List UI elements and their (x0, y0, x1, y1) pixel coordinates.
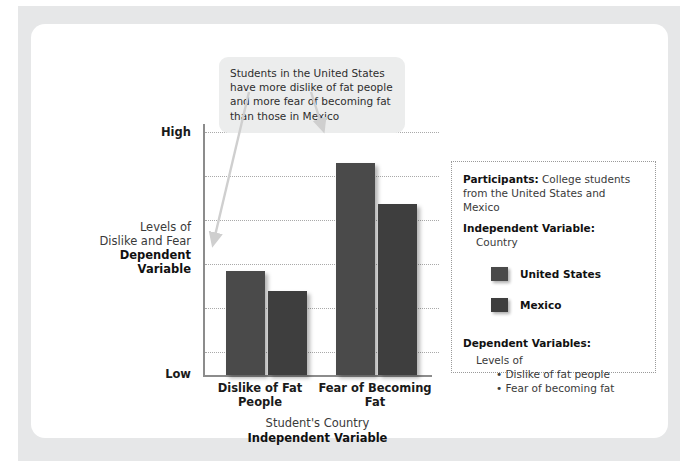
independent-variable-label: Independent Variable: (463, 221, 644, 235)
x-axis-line (203, 375, 432, 377)
y-axis-line (203, 124, 205, 377)
dependent-variables-block: Dependent Variables: Levels of • Dislike… (463, 336, 644, 395)
participants-line: Participants: College students from the … (463, 172, 644, 214)
x-axis-title: Student's Country Independent Variable (203, 416, 432, 446)
screenshot-root: High Low Levels of Dislike and Fear Depe… (0, 0, 698, 470)
y-axis-title-plain: Levels of Dislike and Fear (99, 220, 191, 248)
bar-mexico-1 (378, 204, 417, 375)
dependent-variables-bullets: • Dislike of fat people • Fear of becomi… (496, 367, 644, 395)
legend-swatch-united-states (491, 267, 508, 281)
independent-variable-value: Country (476, 235, 644, 249)
y-axis-high-label: High (121, 125, 191, 139)
y-axis-low-label: Low (121, 367, 191, 381)
slide-card: High Low Levels of Dislike and Fear Depe… (31, 24, 668, 438)
y-axis-title-bold: Dependent Variable (99, 248, 191, 276)
legend-item-united-states: United States (491, 267, 644, 281)
dv-bullet-1: • Fear of becoming fat (496, 381, 644, 395)
dependent-variables-value: Levels of (476, 353, 644, 367)
x-tick-label-1: Fear of Becoming Fat (317, 381, 433, 409)
callout-annotation: Students in the United States have more … (219, 57, 405, 133)
legend-label-united-states: United States (520, 267, 601, 281)
legend-label-mexico: Mexico (520, 298, 561, 312)
x-tick-label-0: Dislike of Fat People (203, 381, 317, 409)
legend: United States Mexico (463, 267, 644, 312)
participants-label: Participants: (463, 173, 539, 185)
dependent-variables-label: Dependent Variables: (463, 336, 644, 350)
bar-united-states-1 (336, 163, 375, 375)
y-axis-title: Levels of Dislike and Fear Dependent Var… (99, 220, 191, 276)
independent-variable-block: Independent Variable: Country (463, 221, 644, 249)
x-axis-title-bold: Independent Variable (203, 431, 432, 446)
legend-item-mexico: Mexico (491, 298, 644, 312)
dv-bullet-0: • Dislike of fat people (496, 367, 644, 381)
study-info-box: Participants: College students from the … (451, 161, 656, 373)
bar-united-states-0 (226, 271, 265, 375)
bar-mexico-0 (268, 291, 307, 375)
gridline-1 (205, 176, 439, 177)
legend-swatch-mexico (491, 298, 508, 312)
x-axis-title-plain: Student's Country (203, 416, 432, 431)
